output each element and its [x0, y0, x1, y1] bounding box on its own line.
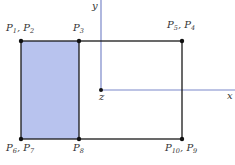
label-p8: P8: [72, 142, 84, 155]
label-p10-p9: P10, P9: [164, 142, 197, 155]
x-axis-label: x: [227, 90, 233, 101]
point-p10-p9: [180, 137, 184, 141]
y-axis-label: y: [91, 0, 98, 11]
point-p3: [77, 39, 81, 43]
point-p8: [77, 137, 81, 141]
label-p6-p7: P6, P7: [5, 142, 35, 155]
shaded-region: [21, 41, 79, 139]
diagram-canvas: y x z P1, P2 P3 P5, P4 P6, P7 P8 P10, P9: [0, 0, 235, 165]
point-p6-p7: [19, 137, 23, 141]
origin-label: z: [98, 91, 105, 102]
point-p1-p2: [19, 39, 23, 43]
label-p1-p2: P1, P2: [5, 22, 34, 35]
label-p3: P3: [72, 22, 84, 35]
label-p5-p4: P5, P4: [166, 19, 195, 32]
point-p5-p4: [180, 39, 184, 43]
